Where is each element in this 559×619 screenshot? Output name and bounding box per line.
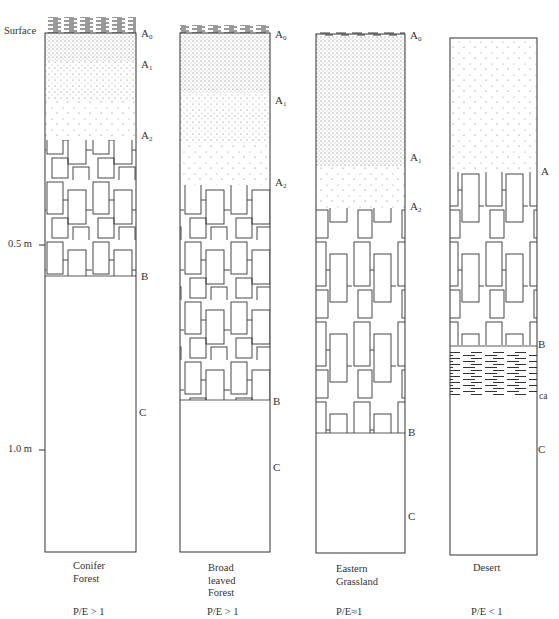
- caption-desert: Desert: [473, 562, 500, 575]
- profile-desert: [450, 38, 537, 555]
- horizon-label-broadleaf-a1: A1: [275, 94, 286, 110]
- pe-ratio-broadleaf: P/E > 1: [207, 606, 239, 617]
- horizon-label-conifer-a1: A1: [141, 58, 152, 74]
- horizon-label-conifer-a0: A0: [141, 27, 152, 43]
- horizon-label-grassland-b: B: [408, 426, 415, 438]
- horizon-label-broadleaf-a0: A0: [275, 28, 286, 44]
- depth-tick-1-0m: 1.0 m: [8, 443, 32, 454]
- profile-grassland: [316, 32, 405, 553]
- caption-conifer: Conifer Forest: [73, 560, 105, 585]
- horizon-label-conifer-b: B: [141, 270, 148, 282]
- horizon-label-broadleaf-c: C: [273, 461, 280, 473]
- soil-profiles-drawing: [0, 0, 559, 619]
- caption-grassland: Eastern Grassland: [336, 563, 378, 588]
- horizon-label-grassland-a2: A2: [410, 200, 421, 216]
- horizon-label-desert-b: B: [538, 338, 545, 350]
- horizon-label-grassland-c: C: [408, 510, 415, 522]
- horizon-label-desert-c: C: [538, 443, 545, 455]
- horizon-label-broadleaf-a2: A2: [275, 176, 286, 192]
- pe-ratio-grassland: P/E≈1: [336, 606, 362, 617]
- pe-ratio-conifer: P/E > 1: [73, 606, 105, 617]
- pe-ratio-desert: P/E < 1: [471, 606, 503, 617]
- horizon-label-conifer-c: C: [139, 406, 146, 418]
- horizon-label-desert-ca: ca: [539, 390, 547, 402]
- profile-broadleaf: [180, 25, 270, 552]
- profile-conifer: [39, 17, 136, 552]
- depth-tick-0-5m: 0.5 m: [8, 238, 32, 249]
- horizon-label-grassland-a0: A0: [410, 29, 421, 45]
- caption-broadleaf: Broad leaved Forest: [208, 562, 235, 600]
- horizon-label-grassland-a1: A1: [410, 151, 421, 167]
- horizon-label-broadleaf-b: B: [273, 395, 280, 407]
- surface-label: Surface: [4, 25, 36, 36]
- horizon-label-desert-a: A: [541, 165, 549, 177]
- horizon-label-conifer-a2: A2: [141, 129, 152, 145]
